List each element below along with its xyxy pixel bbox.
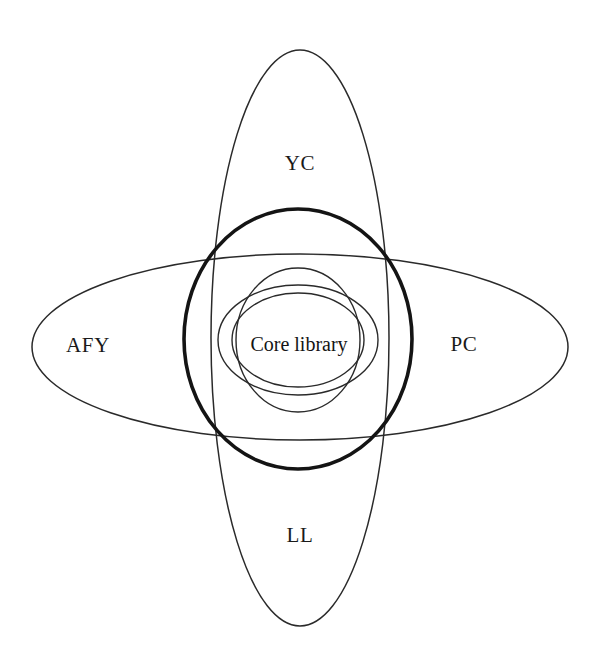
venn-diagram-canvas: YC AFY PC LL Core library — [0, 0, 593, 660]
core-library-label: Core library — [250, 333, 347, 356]
set-label-ll: LL — [287, 523, 314, 547]
set-label-yc: YC — [285, 151, 315, 175]
figure-background — [0, 0, 593, 660]
set-label-afy: AFY — [66, 333, 110, 357]
set-label-pc: PC — [451, 332, 478, 356]
venn-diagram-figure: YC AFY PC LL Core library — [0, 0, 593, 660]
